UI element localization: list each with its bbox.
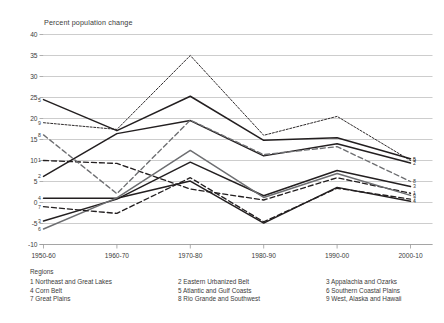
series-line-4 (44, 181, 411, 223)
legend-item: 5 Atlantic and Gulf Coasts (178, 287, 326, 296)
chart-legend: Regions 1 Northeast and Great Lakes2 Eas… (30, 268, 434, 304)
series-line-7 (44, 178, 411, 222)
series-label-left-2: 2 (38, 173, 41, 179)
series-label-right-3: 3 (413, 183, 416, 189)
series-line-8 (44, 120, 411, 193)
series-label-left-1: 1 (38, 157, 41, 163)
series-line-2 (44, 121, 411, 177)
legend-title: Regions (30, 268, 434, 277)
series-label-left-7: 7 (38, 204, 41, 210)
legend-item: 7 Great Plains (30, 295, 178, 304)
series-label-left-6: 6 (38, 226, 41, 232)
x-axis-tick-label: 1990-00 (325, 252, 350, 259)
x-axis-tick-label: 1960-70 (105, 252, 130, 259)
y-axis-tick-label: 40 (30, 31, 38, 38)
y-axis-tick-label: 30 (30, 73, 38, 80)
legend-item: 3 Appalachia and Ozarks (326, 278, 434, 287)
series-label-left-9: 9 (38, 120, 41, 126)
x-axis-tick-label: 1950-60 (31, 252, 56, 259)
legend-item: 6 Southern Coastal Plains (326, 287, 434, 296)
series-label-right-2: 2 (413, 160, 416, 166)
legend-item: 9 West, Alaska and Hawaii (326, 295, 434, 304)
population-change-line-chart: Percent population change -10-5051015202… (0, 0, 444, 323)
y-axis-tick-label: 25 (30, 94, 38, 101)
x-axis-tick-label: 1970-80 (178, 252, 203, 259)
series-line-1 (44, 161, 411, 200)
y-axis-tick-label: -5 (32, 220, 38, 227)
legend-item: 4 Corn Belt (30, 287, 178, 296)
legend-item: 1 Northeast and Great Lakes (30, 278, 178, 287)
series-label-left-3: 3 (38, 218, 41, 224)
legend-items-grid: 1 Northeast and Great Lakes2 Eastern Urb… (30, 278, 434, 304)
series-label-left-8: 8 (38, 132, 41, 138)
x-axis-tick-label: 2000-10 (398, 252, 423, 259)
series-label-left-4: 4 (38, 195, 41, 201)
series-line-6 (44, 150, 411, 229)
x-axis-tick-label: 1980-90 (252, 252, 277, 259)
y-axis-tick-label: 15 (30, 136, 38, 143)
y-axis-tick-label: -10 (28, 241, 38, 248)
y-axis-tick-label: 20 (30, 115, 38, 122)
series-label-left-5: 5 (38, 97, 41, 103)
legend-item: 8 Rio Grande and Southwest (178, 295, 326, 304)
y-axis-tick-label: 10 (30, 157, 38, 164)
legend-item: 2 Eastern Urbanized Belt (178, 278, 326, 287)
y-axis-tick-label: 35 (30, 52, 38, 59)
series-label-right-4: 4 (413, 198, 416, 204)
